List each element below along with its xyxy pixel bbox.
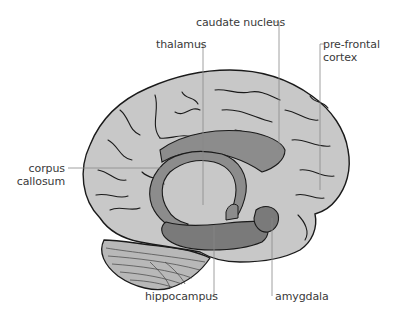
- amygdala: [254, 207, 279, 233]
- label-thalamus: thalamus: [156, 38, 206, 51]
- label-amygdala: amygdala: [275, 290, 329, 303]
- label-corpus-line1: corpus: [20, 162, 65, 175]
- label-caudate-nucleus: caudate nucleus: [196, 16, 285, 29]
- label-hippocampus: hippocampus: [145, 290, 218, 303]
- label-prefrontal-line1: pre-frontal: [323, 38, 380, 51]
- hippocampus: [162, 221, 268, 250]
- label-corpus-line2: callosum: [10, 175, 65, 188]
- label-prefrontal-line2: cortex: [323, 51, 357, 64]
